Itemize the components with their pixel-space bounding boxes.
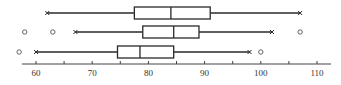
x-axis-tick-label: 90 [200,68,210,78]
iqr-box [143,26,199,38]
x-axis-tick-label: 60 [32,68,42,78]
x-axis-tick-label: 80 [144,68,154,78]
outlier-circle-icon [23,30,27,34]
x-axis-tick-label: 110 [310,68,324,78]
iqr-box [134,7,210,19]
box-plot-svg: 60708090100110 [0,0,341,85]
box-plot-chart: 60708090100110 [0,0,341,85]
x-axis-tick-label: 70 [88,68,98,78]
outlier-circle-icon [17,50,21,54]
outlier-circle-icon [259,50,263,54]
outlier-circle-icon [51,30,55,34]
iqr-box [117,46,173,58]
outlier-circle-icon [298,30,302,34]
x-axis-tick-label: 100 [254,68,268,78]
